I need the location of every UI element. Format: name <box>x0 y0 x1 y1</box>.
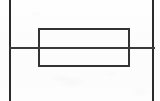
left-vertical-rule <box>9 0 11 101</box>
right-vertical-rule <box>152 0 154 101</box>
drawing-canvas <box>0 0 160 101</box>
open-rectangle <box>38 28 130 67</box>
